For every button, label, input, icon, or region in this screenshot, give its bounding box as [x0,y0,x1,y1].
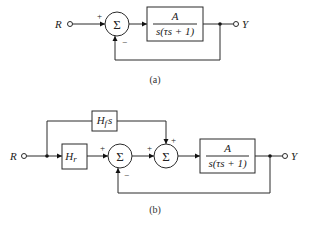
plant-denominator: s(τs + 1) [208,157,247,170]
output-terminal [234,22,239,27]
arrow-icon [149,154,154,159]
arrow-icon [100,22,105,27]
arrow-icon [164,139,169,144]
output-terminal [283,154,288,159]
arrow-icon [142,22,147,27]
arrow-icon [57,154,62,159]
summer1-sign-minus: − [124,170,129,180]
input-terminal [22,154,27,159]
arrow-icon [195,154,200,159]
plant-numerator: A [223,142,231,154]
arrow-icon [113,36,118,41]
arrow-icon [116,168,121,173]
summer-sign-minus: − [122,37,127,47]
summer2-sign-plus-left: + [147,143,152,153]
sigma-symbol: Σ [162,149,170,164]
summer1-sign-plus: + [100,143,105,153]
plant-denominator: s(τs + 1) [156,25,195,38]
sigma-symbol: Σ [116,149,124,164]
sigma-symbol: Σ [113,17,121,32]
output-label-y: Y [291,150,299,162]
plant-numerator: A [171,10,179,22]
input-label-r: R [9,150,17,162]
arrow-icon [103,154,108,159]
caption-a: (a) [149,74,160,86]
diagram-a: R + Σ − A s(τs + 1) Y (a) [54,7,250,86]
summer-sign-plus: + [97,11,102,21]
block-diagrams: R + Σ − A s(τs + 1) Y (a) R Hr + [0,0,310,230]
summer2-sign-plus-top: + [171,135,176,145]
feedforward-path [117,121,166,144]
hf-label: Hfs [96,114,113,128]
caption-b: (b) [149,204,161,216]
input-terminal [68,22,73,27]
input-label-r: R [54,18,62,30]
output-label-y: Y [242,18,250,30]
diagram-b: R Hr + Σ − + Hfs + Σ A s(τs + 1) [9,111,299,216]
